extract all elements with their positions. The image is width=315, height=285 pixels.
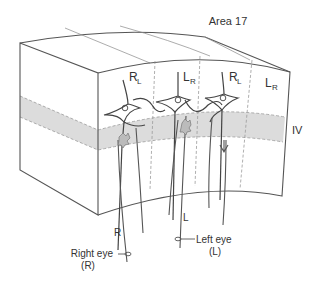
layer-iv-label: IV xyxy=(292,124,303,136)
right-eye-label: Right eye xyxy=(71,248,114,259)
fiber-2 xyxy=(136,128,143,233)
ocular-dominance-diagram: Area 17 R L L R R L L R xyxy=(0,0,315,285)
left-eye-marker xyxy=(175,237,195,241)
svg-text:L: L xyxy=(183,70,190,84)
diagram-title: Area 17 xyxy=(209,15,248,27)
right-eye-abbr: (R) xyxy=(81,260,95,271)
column-label-1: R L xyxy=(129,70,142,86)
column-label-2: L R xyxy=(183,70,196,86)
neuron-1 xyxy=(104,80,165,250)
fiber-label-right: R xyxy=(114,227,121,238)
svg-text:L: L xyxy=(265,76,272,90)
svg-text:L: L xyxy=(237,77,242,86)
column-label-3: R L xyxy=(229,70,242,86)
top-face-stripe-3 xyxy=(205,37,250,60)
svg-text:L: L xyxy=(137,77,142,86)
left-eye-label: Left eye xyxy=(196,234,232,245)
fiber-label-left: L xyxy=(183,212,189,223)
layer-iv-band-left-face xyxy=(20,96,98,150)
left-eye-abbr: (L) xyxy=(209,246,221,257)
neuron-2 xyxy=(156,72,222,220)
svg-text:R: R xyxy=(272,83,278,92)
fiber-6 xyxy=(223,140,226,225)
svg-text:R: R xyxy=(190,77,196,86)
right-eye-marker xyxy=(118,252,131,256)
column-label-4: L R xyxy=(265,76,278,92)
top-face-stripe-2 xyxy=(120,26,210,56)
